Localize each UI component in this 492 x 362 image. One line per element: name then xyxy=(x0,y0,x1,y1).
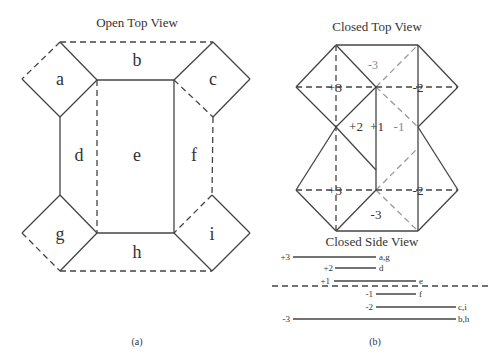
level-label-m1: -1 xyxy=(394,119,405,134)
face-label-h: h xyxy=(133,242,142,262)
side-view-title: Closed Side View xyxy=(326,234,419,249)
closed-side-view: Closed Side View +3 a,g +2 d +1 e -1 f -… xyxy=(272,234,488,348)
panel-a-caption: (a) xyxy=(131,336,142,348)
level-label-m3-top: -3 xyxy=(368,58,378,72)
side-faces-p2: d xyxy=(379,263,384,273)
face-label-f: f xyxy=(191,145,197,165)
side-faces-m1: f xyxy=(419,289,422,299)
level-label-m3-bottom: -3 xyxy=(371,207,382,222)
face-label-b: b xyxy=(133,50,142,70)
panel-b-title: Closed Top View xyxy=(332,19,422,34)
face-label-a: a xyxy=(56,69,64,89)
level-label-p1: +1 xyxy=(370,119,384,134)
level-label-p2: +2 xyxy=(349,119,363,134)
face-label-e: e xyxy=(133,145,141,165)
diagram-canvas: Open Top View a b c xyxy=(0,0,492,362)
face-label-c: c xyxy=(209,69,217,89)
side-faces-m3: b,h xyxy=(458,314,470,324)
side-level-m3: -3 xyxy=(283,314,291,324)
level-label-p3-top: +3 xyxy=(328,80,342,95)
side-level-m2: -2 xyxy=(366,302,374,312)
level-label-p3-bottom: +3 xyxy=(328,183,342,198)
panel-b-caption: (b) xyxy=(369,336,381,348)
side-faces-m2: c,i xyxy=(458,302,467,312)
side-level-p3: +3 xyxy=(280,252,290,262)
side-level-p2: +2 xyxy=(323,263,333,273)
panel-a-title: Open Top View xyxy=(96,15,178,30)
side-level-p1: +1 xyxy=(320,276,330,286)
side-faces-p1: e xyxy=(419,276,423,286)
face-label-i: i xyxy=(209,224,214,244)
open-top-view: Open Top View a b c xyxy=(22,15,250,348)
side-level-m1: -1 xyxy=(366,289,374,299)
level-label-m2-bottom: -2 xyxy=(413,183,424,198)
side-faces-p3: a,g xyxy=(379,252,390,262)
face-label-g: g xyxy=(56,224,65,244)
face-label-d: d xyxy=(75,145,84,165)
closed-top-view: Closed Top View -3 +3 xyxy=(296,19,458,231)
level-label-m2-top: -2 xyxy=(413,80,424,95)
